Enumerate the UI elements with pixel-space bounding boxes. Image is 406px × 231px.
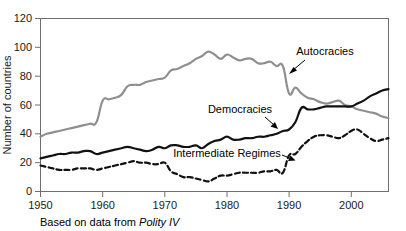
annotation-label-intermediate-regimes: Intermediate Regimes — [173, 147, 281, 159]
y-tick-label: 0 — [26, 185, 32, 197]
caption-prefix: Based on data from — [40, 216, 139, 228]
chart-caption: Based on data from Polity IV — [40, 216, 181, 228]
x-tick-label: 1970 — [153, 199, 177, 211]
line-chart-canvas: 120 100 80 60 40 20 0 Number of countrie… — [0, 0, 406, 231]
y-tick-label: 120 — [14, 12, 32, 24]
x-tick-label: 1960 — [90, 199, 114, 211]
annotation-label-democracies: Democracies — [208, 103, 273, 115]
chart-figure: 120 100 80 60 40 20 0 Number of countrie… — [0, 0, 406, 231]
y-tick-label: 100 — [14, 41, 32, 53]
x-tick-label: 2000 — [339, 199, 363, 211]
y-tick-label: 20 — [20, 156, 32, 168]
annotation-intermediate-regimes: Intermediate Regimes — [173, 147, 295, 161]
caption-source: Polity IV — [139, 216, 181, 228]
y-tick-label: 40 — [20, 127, 32, 139]
x-tick-label: 1990 — [277, 199, 301, 211]
x-tick-label: 1950 — [28, 199, 52, 211]
y-axis-title: Number of countries — [1, 55, 13, 155]
y-tick-label: 80 — [20, 70, 32, 82]
y-tick-label: 60 — [20, 99, 32, 111]
annotation-label-autocracies: Autocracies — [296, 45, 354, 57]
chart-background — [0, 0, 406, 231]
x-tick-label: 1980 — [215, 199, 239, 211]
